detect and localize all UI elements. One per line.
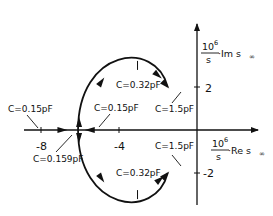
svg-text:s: s	[206, 54, 211, 65]
leader-line	[172, 92, 181, 103]
direction-arrow-icon	[76, 133, 82, 143]
direction-arrow-icon	[96, 173, 107, 185]
direction-arrow-icon	[76, 117, 82, 127]
y-axis-label: 10 6 s ·Im s ∞	[201, 39, 255, 65]
svg-text:10: 10	[212, 138, 224, 149]
root-locus-diagram: 10 6 s ·Im s ∞ 10 6 s ·Re s ∞ -8 -4 2 -2…	[0, 0, 273, 216]
leader-line	[56, 135, 72, 152]
leader-line	[99, 114, 110, 127]
annotation-c032-bottom: C=0.32pF	[116, 168, 161, 178]
direction-arrow-icon	[57, 127, 67, 133]
y-tick-label: -2	[203, 167, 214, 180]
annotation-c15-top: C=1.5pF	[155, 104, 194, 114]
direction-arrow-icon	[85, 127, 95, 133]
svg-text:6: 6	[224, 136, 228, 144]
annotation-c032-top: C=0.32pF	[116, 80, 161, 90]
annotation-c15-bottom: C=1.5pF	[155, 141, 194, 151]
svg-text:·Im s: ·Im s	[218, 48, 241, 59]
annotation-c015-left: C=0.15pF	[8, 104, 53, 114]
annotation-c0159: C=0.159pF	[33, 154, 83, 164]
svg-text:∞: ∞	[249, 53, 255, 61]
svg-text:·Re s: ·Re s	[228, 145, 251, 156]
annotation-c015-right: C=0.15pF	[94, 103, 139, 113]
leader-line	[27, 115, 38, 128]
direction-arrow-icon	[96, 76, 107, 88]
y-tick-label: 2	[205, 82, 212, 95]
leader-line	[172, 155, 181, 166]
svg-text:∞: ∞	[259, 150, 265, 158]
x-tick-label: -8	[36, 140, 47, 153]
x-tick-label: -4	[114, 140, 125, 153]
svg-text:10: 10	[202, 41, 214, 52]
locus-upper-branch	[78, 58, 168, 130]
svg-text:6: 6	[214, 39, 218, 47]
svg-text:s: s	[216, 151, 221, 162]
x-axis-label: 10 6 s ·Re s ∞	[211, 136, 265, 162]
